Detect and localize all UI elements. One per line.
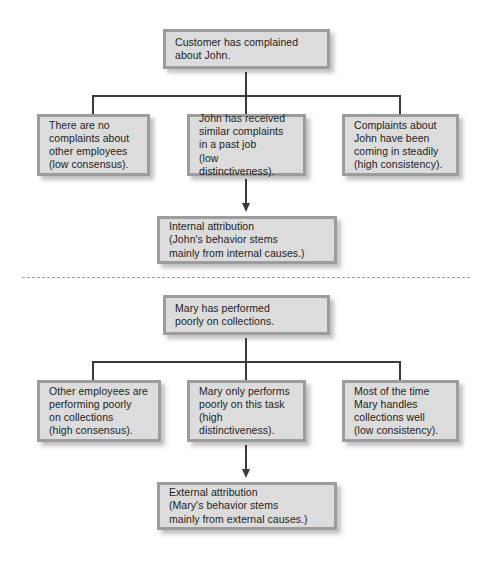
attribution-flowchart: Customer has complained about John. Ther… [0, 0, 492, 567]
node-mary-root-label: Mary has performed poorly on collections… [175, 302, 318, 328]
node-mary-consensus: Other employees are performing poorly on… [37, 380, 161, 442]
node-mary-conclusion-label: External attribution (Mary's behavior st… [169, 486, 308, 526]
node-john-conclusion-label: Internal attribution (John's behavior st… [169, 220, 305, 260]
node-mary-distinctiveness: Mary only performs poorly on this task (… [187, 380, 306, 442]
node-john-conclusion: Internal attribution (John's behavior st… [157, 216, 337, 264]
node-john-consistency: Complaints about John have been coming i… [342, 114, 459, 176]
node-john-distinctiveness-label: John has received similar complaints in … [199, 112, 294, 178]
node-mary-consistency-label: Most of the time Mary handles collection… [354, 385, 438, 438]
node-mary-root: Mary has performed poorly on collections… [163, 295, 330, 335]
node-john-consensus-label: There are no complaints about other empl… [49, 119, 129, 172]
node-john-root-label: Customer has complained about John. [175, 36, 318, 62]
connector-john-root-stem [245, 72, 247, 96]
node-john-distinctiveness: John has received similar complaints in … [187, 114, 306, 176]
connector-mary-drop-center [245, 361, 247, 382]
node-john-root: Customer has complained about John. [163, 29, 330, 69]
connector-mary-drop-right [399, 361, 401, 382]
node-mary-consistency: Most of the time Mary handles collection… [342, 380, 459, 442]
connector-john-drop-right [399, 95, 401, 116]
node-mary-distinctiveness-label: Mary only performs poorly on this task (… [199, 385, 294, 438]
node-mary-conclusion: External attribution (Mary's behavior st… [157, 482, 337, 530]
connector-mary-root-stem [245, 338, 247, 362]
connector-mary-drop-left [92, 361, 94, 382]
node-john-consensus: There are no complaints about other empl… [37, 114, 150, 176]
connector-john-drop-left [92, 95, 94, 116]
arrowhead-mary-conclusion [242, 469, 250, 478]
arrowhead-john-conclusion [242, 203, 250, 212]
node-john-consistency-label: Complaints about John have been coming i… [354, 119, 443, 172]
node-mary-consensus-label: Other employees are performing poorly on… [49, 385, 148, 438]
section-divider [22, 277, 470, 278]
